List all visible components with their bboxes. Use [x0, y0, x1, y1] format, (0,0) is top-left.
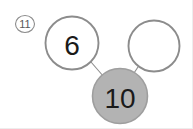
number-bond-part-right[interactable]	[129, 21, 180, 72]
whole-value: 10	[104, 83, 135, 114]
number-bond-part-left[interactable]: 6	[46, 17, 99, 70]
part-left-value: 6	[64, 30, 80, 61]
number-bond-diagram: 11 6 10	[0, 0, 193, 129]
problem-number-badge: 11	[16, 16, 35, 33]
part-right-circle[interactable]	[129, 21, 180, 72]
number-bond-whole[interactable]: 10	[93, 69, 148, 124]
problem-number-label: 11	[19, 18, 30, 30]
worksheet-problem-canvas: 11 6 10	[0, 0, 193, 129]
